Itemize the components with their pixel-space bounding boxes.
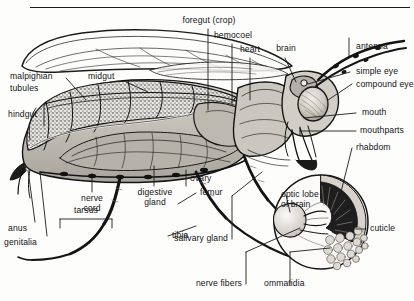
abdomen — [10, 80, 255, 198]
label-tibia: tibia — [172, 231, 188, 241]
label-femur: femur — [200, 188, 222, 198]
label-anus: anus — [8, 224, 27, 234]
label-optic-lobe-line2: of brain — [281, 200, 310, 210]
label-genitalia: genitalia — [4, 238, 37, 248]
label-nerve-fibers: nerve fibers — [186, 279, 242, 289]
label-mouthparts: mouthparts — [360, 126, 404, 136]
label-cuticle: cuticle — [370, 224, 395, 234]
label-ovary: ovary — [190, 174, 212, 184]
label-malpighian-tubules-line2: tubules — [10, 84, 38, 94]
label-mouth: mouth — [362, 108, 386, 118]
label-brain: brain — [266, 44, 306, 54]
label-hindgut: hindgut — [8, 110, 37, 120]
label-midgut: midgut — [88, 72, 114, 82]
label-hemocoel: hemocoel — [200, 31, 266, 41]
insect-anatomy-figure: foregut (crop) hemocoel heart brain ante… — [0, 0, 414, 301]
label-salivary-gland: salivary gland — [160, 234, 228, 244]
label-ommatidia: ommatidia — [264, 279, 305, 289]
label-compound-eye: compound eye — [356, 80, 414, 90]
label-malpighian-tubules-line1: malpighian — [10, 72, 53, 82]
label-nerve-cord-line2: cord — [68, 204, 116, 214]
anatomy-artwork — [0, 0, 414, 301]
label-rhabdom: rhabdom — [356, 143, 391, 153]
label-digestive-gland-line2: gland — [128, 198, 182, 208]
label-foregut-crop: foregut (crop) — [168, 16, 250, 26]
label-antenna: antenna — [356, 42, 388, 52]
label-simple-eye: simple eye — [356, 67, 398, 77]
